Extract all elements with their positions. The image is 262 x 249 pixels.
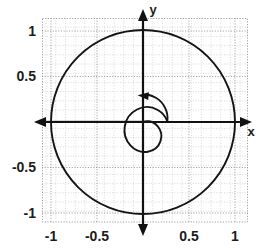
x-tick-label-minus-half: -0.5 xyxy=(85,228,109,244)
y-axis-label: y xyxy=(149,2,157,17)
x-tick-label-minus-one: -1 xyxy=(45,228,58,244)
x-axis-label: x xyxy=(247,124,255,139)
grid-frame xyxy=(43,19,248,223)
x-tick-label-one: 1 xyxy=(231,228,239,244)
y-tick-label-one: 1 xyxy=(28,23,36,39)
grid-minor-horizontal xyxy=(42,27,248,211)
y-tick-label-half: 0.5 xyxy=(17,68,37,84)
x-axis-negative-arrow-icon xyxy=(34,117,46,127)
y-tick-label-minus-one: -1 xyxy=(24,205,37,221)
y-axis-negative-arrow-icon xyxy=(138,224,148,236)
grid-major-lines xyxy=(42,18,248,222)
plot-svg: -1 -0.5 0.5 1 1 0.5 -0.5 -1 x y xyxy=(0,0,262,249)
inner-spiral-curve xyxy=(124,107,167,152)
grid-group xyxy=(42,18,248,222)
y-tick-label-minus-half: -0.5 xyxy=(12,159,36,175)
x-tick-label-half: 0.5 xyxy=(179,228,199,244)
plot-figure: -1 -0.5 0.5 1 1 0.5 -0.5 -1 x y xyxy=(0,0,262,249)
y-axis-positive-arrow-icon xyxy=(138,9,148,21)
